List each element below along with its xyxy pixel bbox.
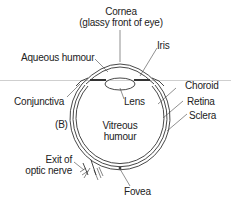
label-iris: Iris bbox=[157, 40, 170, 51]
label-vitreous-humour: Vitreous humour bbox=[95, 120, 145, 142]
label-sclera: Sclera bbox=[189, 110, 216, 121]
panel-label: (B) bbox=[55, 119, 68, 130]
label-retina: Retina bbox=[187, 96, 215, 107]
label-cornea: Cornea (glassy front of eye) bbox=[76, 6, 166, 28]
label-aqueous-humour: Aqueous humour bbox=[21, 52, 94, 63]
label-fovea: Fovea bbox=[124, 186, 151, 197]
eye-diagram: Cornea (glassy front of eye) Iris Aqueou… bbox=[0, 0, 231, 203]
label-conjunctiva: Conjunctiva bbox=[14, 96, 64, 107]
label-choroid: Choroid bbox=[185, 80, 219, 91]
label-lens: Lens bbox=[124, 96, 145, 107]
label-optic-nerve: Exit of optic nerve bbox=[20, 154, 72, 176]
